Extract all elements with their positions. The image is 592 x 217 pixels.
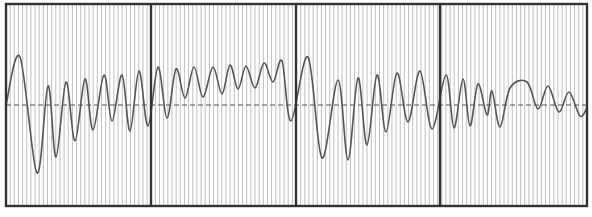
waveform-chart bbox=[0, 0, 592, 217]
waveform-plot bbox=[0, 0, 592, 217]
